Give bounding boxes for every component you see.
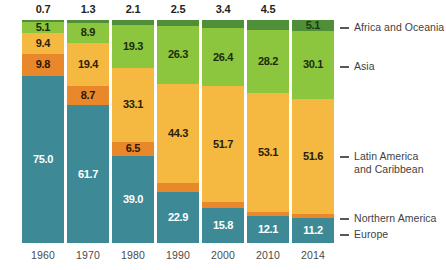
legend-label: Northern America <box>354 212 437 225</box>
bar-segment[interactable]: 51.7 <box>202 86 244 201</box>
segment-value-label: 19.4 <box>78 59 98 70</box>
bar-segment[interactable]: 61.7 <box>67 105 109 243</box>
bar-segment[interactable]: 22.9 <box>157 192 199 243</box>
segment-value-label: 15.8 <box>213 220 233 231</box>
segment-value-label: 53.1 <box>258 147 278 158</box>
bar-segment[interactable]: 4.0 <box>157 183 199 192</box>
legend-item-africa-and-oceania[interactable]: Africa and Oceania <box>340 21 444 34</box>
legend-item-latin-america[interactable]: Latin Americaand Caribbean <box>340 150 424 176</box>
stacked-bar: 2.526.344.34.022.9 <box>157 20 199 243</box>
x-axis-tick-1960: 1960 <box>22 247 64 263</box>
legend-dash-icon <box>340 27 349 29</box>
legend-item-europe[interactable]: Europe <box>340 228 388 241</box>
bar-segment[interactable]: 75.0 <box>22 76 64 243</box>
bar-segment[interactable]: 4.5 <box>247 20 289 30</box>
bar-segment[interactable]: 5.1 <box>292 20 334 31</box>
bar-column-2014[interactable]: 5.130.151.61.911.2 <box>292 0 334 270</box>
africa-value-above-bar: 2.1 <box>112 2 154 17</box>
bar-segment[interactable]: 26.3 <box>157 26 199 85</box>
stacked-bar: 4.528.253.1212.1 <box>247 20 289 243</box>
bar-column-1990[interactable]: 2.52.526.344.34.022.9 <box>157 0 199 270</box>
bar-segment[interactable]: 19.3 <box>112 25 154 68</box>
segment-value-label: 44.3 <box>168 128 188 139</box>
x-axis-tick-1970: 1970 <box>67 247 109 263</box>
bar-column-1960[interactable]: 0.70.75.19.49.875.0 <box>22 0 64 270</box>
bar-segment[interactable]: 6.5 <box>112 142 154 157</box>
segment-value-label: 26.3 <box>168 49 188 60</box>
x-axis-tick-1980: 1980 <box>112 247 154 263</box>
legend-dash-icon <box>340 66 349 68</box>
segment-value-label: 22.9 <box>168 212 188 223</box>
bar-segment[interactable]: 8.7 <box>67 86 109 105</box>
segment-value-label: 8.7 <box>81 90 95 101</box>
segment-value-label: 6.5 <box>126 143 140 154</box>
bar-segment[interactable]: 5.1 <box>22 22 64 33</box>
segment-value-label: 9.4 <box>36 38 50 49</box>
legend-item-northern-america[interactable]: Northern America <box>340 212 437 225</box>
segment-value-label: 30.1 <box>303 59 323 70</box>
chart-legend: Africa and OceaniaAsiaLatin Americaand C… <box>340 0 446 270</box>
legend-item-asia[interactable]: Asia <box>340 60 375 73</box>
bar-segment[interactable]: 9.8 <box>22 54 64 76</box>
bar-segment[interactable]: 19.4 <box>67 43 109 86</box>
bar-segment[interactable]: 30.1 <box>292 31 334 98</box>
bar-segment[interactable]: 44.3 <box>157 84 199 183</box>
segment-value-label: 5.1 <box>306 20 320 31</box>
legend-label: Europe <box>354 228 388 241</box>
bar-segment[interactable]: 9.4 <box>22 33 64 54</box>
bar-column-1970[interactable]: 1.31.38.919.48.761.7 <box>67 0 109 270</box>
segment-value-label: 51.6 <box>303 151 323 162</box>
segment-value-label: 9.8 <box>36 59 50 70</box>
bar-column-2000[interactable]: 3.43.426.451.72.715.8 <box>202 0 244 270</box>
bar-segment[interactable]: 28.2 <box>247 30 289 93</box>
segment-value-label: 26.4 <box>213 52 233 63</box>
segment-value-label: 61.7 <box>78 169 98 180</box>
bar-segment[interactable]: 51.6 <box>292 99 334 214</box>
bar-segment[interactable]: 12.1 <box>247 216 289 243</box>
segment-value-label: 8.9 <box>81 27 95 38</box>
africa-value-above-bar: 2.5 <box>157 2 199 17</box>
africa-value-above-bar: 4.5 <box>247 2 289 17</box>
x-axis-tick-2000: 2000 <box>202 247 244 263</box>
bar-segment[interactable]: 11.2 <box>292 218 334 243</box>
plot-area: 0.70.75.19.49.875.019601.31.38.919.48.76… <box>0 0 340 270</box>
bar-column-2010[interactable]: 4.54.528.253.1212.1 <box>247 0 289 270</box>
africa-value-above-bar: 3.4 <box>202 2 244 17</box>
legend-dash-icon <box>340 156 349 158</box>
segment-value-label: 11.2 <box>303 225 323 236</box>
stacked-bar: 3.426.451.72.715.8 <box>202 20 244 243</box>
bar-segment[interactable]: 26.4 <box>202 28 244 87</box>
bar-segment[interactable]: 53.1 <box>247 93 289 212</box>
stacked-bar: 1.38.919.48.761.7 <box>67 20 109 243</box>
segment-value-label: 39.0 <box>123 194 143 205</box>
segment-value-label: 19.3 <box>123 41 143 52</box>
legend-label: Latin Americaand Caribbean <box>354 150 424 176</box>
bar-segment[interactable]: 3.4 <box>202 20 244 28</box>
legend-label: Africa and Oceania <box>354 21 444 34</box>
legend-label-line2: and Caribbean <box>354 163 424 176</box>
africa-value-above-bar: 1.3 <box>67 2 109 17</box>
x-axis-tick-2010: 2010 <box>247 247 289 263</box>
segment-value-label: 75.0 <box>33 154 53 165</box>
segment-value-label: 28.2 <box>258 56 278 67</box>
bar-column-1980[interactable]: 2.12.119.333.16.539.0 <box>112 0 154 270</box>
segment-value-label: 33.1 <box>123 99 143 110</box>
legend-label: Asia <box>354 60 375 73</box>
legend-dash-icon <box>340 234 349 236</box>
segment-value-label: 5.1 <box>36 22 50 33</box>
stacked-bar: 0.75.19.49.875.0 <box>22 20 64 243</box>
bar-segment[interactable]: 8.9 <box>67 23 109 43</box>
x-axis-tick-2014: 2014 <box>292 247 334 263</box>
africa-value-above-bar: 0.7 <box>22 2 64 17</box>
stacked-bar: 2.119.333.16.539.0 <box>112 20 154 243</box>
x-axis-tick-1990: 1990 <box>157 247 199 263</box>
segment-value-label: 12.1 <box>258 224 278 235</box>
bar-segment[interactable]: 39.0 <box>112 156 154 243</box>
bar-segment[interactable]: 15.8 <box>202 208 244 243</box>
stacked-bar: 5.130.151.61.911.2 <box>292 20 334 243</box>
stacked-bar-chart: 0.70.75.19.49.875.019601.31.38.919.48.76… <box>0 0 446 270</box>
bar-segment[interactable]: 33.1 <box>112 68 154 142</box>
segment-value-label: 51.7 <box>213 139 233 150</box>
legend-dash-icon <box>340 218 349 220</box>
